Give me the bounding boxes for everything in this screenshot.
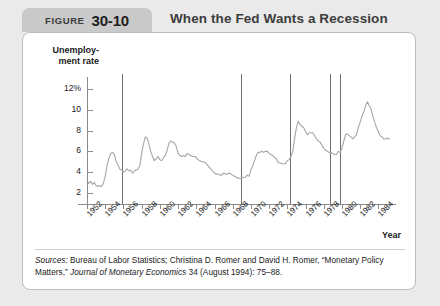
figure-number: 30-10 (92, 12, 129, 29)
figure-page: FIGURE 30-10 When the Fed Wants a Recess… (0, 0, 440, 306)
source-journal: Journal of Monetary Economics (70, 267, 186, 277)
source-divider (35, 249, 405, 250)
figure-label: FIGURE (45, 15, 85, 26)
unemployment-line (87, 102, 389, 187)
x-axis-title: Year (382, 230, 401, 240)
unemployment-series (23, 33, 417, 248)
source-text-2: 34 (August 1994): 75–88. (186, 267, 282, 277)
figure-number-tab: FIGURE 30-10 (22, 8, 152, 32)
source-prefix: Sources: (35, 255, 68, 265)
source-note: Sources: Bureau of Labor Statistics; Chr… (35, 255, 407, 278)
chart-area: Unemploy- ment rate 12%108642 1952195419… (23, 33, 417, 248)
figure-header: FIGURE 30-10 When the Fed Wants a Recess… (22, 8, 418, 34)
figure-panel: Unemploy- ment rate 12%108642 1952195419… (22, 32, 416, 290)
figure-title: When the Fed Wants a Recession (170, 11, 388, 26)
